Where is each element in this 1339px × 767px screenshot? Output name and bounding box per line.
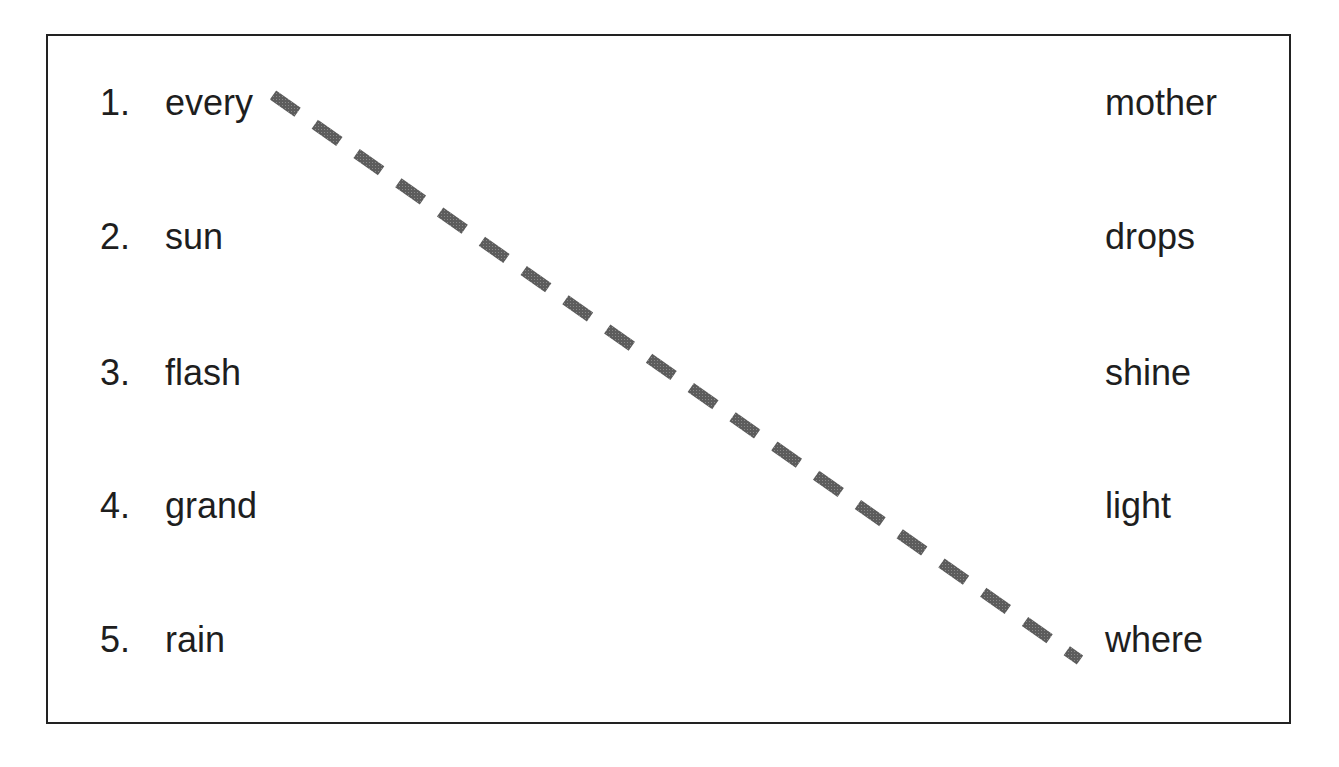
- dashed-connector-line: [0, 0, 1339, 767]
